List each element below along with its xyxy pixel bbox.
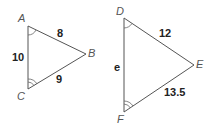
- side-de-label: 12: [159, 27, 171, 39]
- angle-a-single-arc: [28, 30, 36, 35]
- vertex-d-label: D: [116, 5, 124, 17]
- angle-d-single-arc: [124, 24, 132, 29]
- vertex-f-label: F: [117, 113, 125, 125]
- vertex-e-label: E: [196, 58, 204, 70]
- angle-c-arc-inner: [28, 82, 34, 86]
- side-cb-label: 9: [56, 73, 62, 85]
- angle-f-arc-inner: [124, 104, 131, 108]
- triangle-abc: A B C 8 10 9: [12, 12, 95, 102]
- vertex-c-label: C: [17, 90, 25, 102]
- vertex-a-label: A: [17, 12, 25, 24]
- side-ac-label: 10: [12, 51, 24, 63]
- similar-triangles-diagram: A B C 8 10 9 D E F 12 e 13.5: [0, 0, 217, 126]
- side-fe-label: 13.5: [164, 86, 185, 98]
- side-df-label: e: [114, 61, 120, 73]
- vertex-b-label: B: [88, 47, 95, 59]
- side-ab-label: 8: [57, 27, 63, 39]
- triangle-def: D E F 12 e 13.5: [114, 5, 204, 125]
